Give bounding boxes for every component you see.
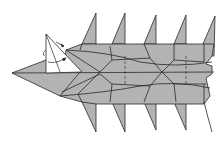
bottom-spike-2 — [112, 102, 125, 132]
top-spike-4 — [174, 15, 186, 44]
tail-strand — [204, 102, 212, 132]
top-spike-1 — [82, 13, 96, 44]
origami-diagram — [0, 0, 223, 151]
bottom-spike-1 — [82, 102, 96, 132]
bottom-spike-4 — [174, 102, 186, 130]
bottom-spike-3 — [144, 102, 156, 130]
top-spike-3 — [144, 15, 156, 44]
top-spike-2 — [112, 13, 125, 44]
main-body — [60, 44, 214, 104]
